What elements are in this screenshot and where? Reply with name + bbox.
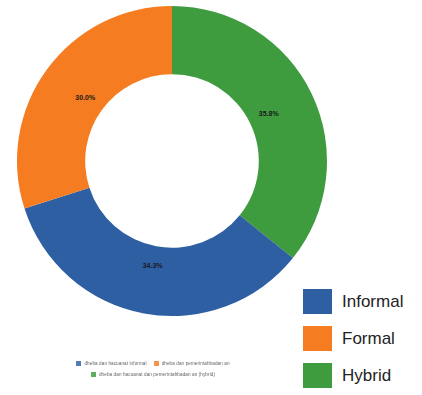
legend-item-hybrid[interactable]: Hybrid: [303, 357, 422, 393]
slice-value-label-hybrid: 35.8%: [259, 110, 280, 117]
legend-bottom-item-informal[interactable]: dheba dan hacuanat informal: [76, 361, 146, 366]
legend-swatch-hybrid: [303, 363, 332, 388]
legend-bottom-label-formal: dheba dan pemerintahbadan an: [162, 361, 230, 366]
legend-swatch-informal: [303, 289, 332, 314]
donut-slice-formal[interactable]: [17, 6, 172, 209]
legend-bottom-swatch-hybrid: [91, 372, 96, 377]
legend-bottom-label-hybrid: dheba dan hacuanat dan pemerintahbadan a…: [99, 372, 215, 377]
legend-label-hybrid: Hybrid: [342, 367, 391, 384]
legend-bottom-item-hybrid[interactable]: dheba dan hacuanat dan pemerintahbadan a…: [91, 372, 215, 377]
legend-bottom-label-informal: dheba dan hacuanat informal: [84, 361, 146, 366]
donut-chart-figure: 35.8%34.3%30.0% Informal Formal Hybrid d…: [0, 0, 422, 395]
donut-chart-svg: 35.8%34.3%30.0%: [14, 3, 330, 319]
donut-slices: [17, 6, 327, 316]
legend-bottom-swatch-formal: [154, 361, 159, 366]
legend-main: Informal Formal Hybrid: [303, 283, 422, 394]
legend-item-formal[interactable]: Formal: [303, 320, 422, 356]
slice-value-label-formal: 30.0%: [75, 94, 96, 101]
legend-item-informal[interactable]: Informal: [303, 283, 422, 319]
legend-bottom-row-2: dheba dan hacuanat dan pemerintahbadan a…: [8, 369, 298, 380]
legend-label-informal: Informal: [342, 293, 403, 310]
legend-bottom-swatch-informal: [76, 361, 81, 366]
legend-bottom-item-formal[interactable]: dheba dan pemerintahbadan an: [154, 361, 230, 366]
donut-slice-hybrid[interactable]: [172, 6, 327, 258]
legend-swatch-formal: [303, 326, 332, 351]
slice-value-label-informal: 34.3%: [143, 262, 164, 269]
donut-chart: 35.8%34.3%30.0%: [14, 3, 330, 319]
legend-bottom-row-1: dheba dan hacuanat informal dheba dan pe…: [8, 358, 298, 369]
legend-bottom: dheba dan hacuanat informal dheba dan pe…: [8, 358, 298, 380]
legend-label-formal: Formal: [342, 330, 395, 347]
